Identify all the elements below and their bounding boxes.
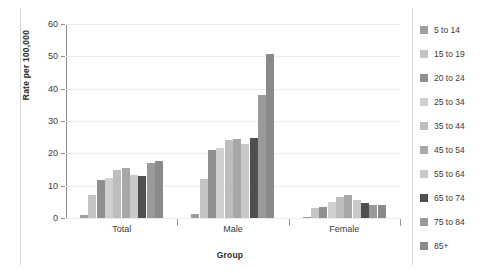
legend-swatch-icon	[420, 74, 428, 82]
bar	[155, 161, 163, 218]
gridline	[66, 218, 400, 219]
x-group-separator	[177, 219, 178, 226]
bar	[311, 208, 319, 218]
legend-swatch-icon	[420, 122, 428, 130]
legend: 5 to 1415 to 1920 to 2425 to 3435 to 444…	[420, 18, 495, 258]
x-group-separator	[400, 219, 401, 226]
bar	[353, 200, 361, 218]
gridline	[66, 89, 400, 90]
bar	[378, 205, 386, 218]
y-tick-mark	[61, 24, 65, 25]
bar	[258, 95, 266, 218]
y-tick-label: 50	[48, 51, 58, 61]
x-axis-label: Group	[60, 250, 400, 260]
bar	[233, 139, 241, 218]
legend-item[interactable]: 35 to 44	[420, 114, 495, 138]
plot-area: 0102030405060	[66, 24, 400, 218]
legend-item[interactable]: 75 to 84	[420, 210, 495, 234]
y-tick-mark	[61, 121, 65, 122]
legend-label: 25 to 34	[434, 97, 465, 107]
bar	[122, 168, 130, 218]
bar	[344, 195, 352, 218]
bar	[250, 138, 258, 218]
bar	[130, 175, 138, 218]
y-tick-mark	[61, 56, 65, 57]
bar	[113, 170, 121, 218]
bar	[225, 140, 233, 218]
gridline	[66, 24, 400, 25]
legend-swatch-icon	[420, 218, 428, 226]
y-tick-mark	[61, 218, 65, 219]
legend-item[interactable]: 15 to 19	[420, 42, 495, 66]
legend-swatch-icon	[420, 26, 428, 34]
legend-label: 5 to 14	[434, 25, 460, 35]
bar	[80, 215, 88, 218]
plot-region: Rate per 100,000 Group 0102030405060 Tot…	[0, 0, 412, 273]
bar	[369, 205, 377, 218]
legend-item[interactable]: 25 to 34	[420, 90, 495, 114]
x-group-separator	[289, 219, 290, 226]
legend-item[interactable]: 5 to 14	[420, 18, 495, 42]
bar-chart: Rate per 100,000 Group 0102030405060 Tot…	[0, 0, 495, 273]
bar	[328, 202, 336, 218]
bar	[200, 179, 208, 218]
bar	[88, 195, 96, 218]
y-axis-label: Rate per 100,000	[21, 0, 31, 135]
legend-swatch-icon	[420, 170, 428, 178]
legend-swatch-icon	[420, 242, 428, 250]
bar	[147, 163, 155, 218]
legend-item[interactable]: 65 to 74	[420, 186, 495, 210]
legend-divider-rule	[412, 8, 413, 265]
bar	[105, 178, 113, 218]
gridline	[66, 56, 400, 57]
y-tick-label: 30	[48, 116, 58, 126]
bar	[336, 197, 344, 218]
legend-item[interactable]: 20 to 24	[420, 66, 495, 90]
bar	[208, 150, 216, 218]
y-tick-label: 60	[48, 19, 58, 29]
legend-label: 75 to 84	[434, 217, 465, 227]
legend-item[interactable]: 55 to 64	[420, 162, 495, 186]
y-tick-label: 20	[48, 148, 58, 158]
y-tick-label: 40	[48, 84, 58, 94]
bar	[191, 214, 199, 218]
legend-swatch-icon	[420, 50, 428, 58]
legend-label: 45 to 54	[434, 145, 465, 155]
x-tick-label: Female	[329, 224, 359, 234]
bar	[216, 148, 224, 218]
legend-swatch-icon	[420, 146, 428, 154]
bar	[319, 207, 327, 218]
legend-item[interactable]: 45 to 54	[420, 138, 495, 162]
legend-swatch-icon	[420, 194, 428, 202]
legend-label: 20 to 24	[434, 73, 465, 83]
x-tick-label: Male	[223, 224, 243, 234]
y-tick-mark	[61, 153, 65, 154]
legend-swatch-icon	[420, 98, 428, 106]
legend-label: 35 to 44	[434, 121, 465, 131]
y-tick-mark	[61, 89, 65, 90]
legend-label: 55 to 64	[434, 169, 465, 179]
bar	[138, 176, 146, 218]
legend-label: 65 to 74	[434, 193, 465, 203]
bar	[97, 180, 105, 218]
gridline	[66, 121, 400, 122]
bar	[266, 54, 274, 218]
bar	[241, 144, 249, 218]
y-tick-mark	[61, 186, 65, 187]
y-tick-label: 10	[48, 181, 58, 191]
y-tick-label: 0	[53, 213, 58, 223]
legend-label: 15 to 19	[434, 49, 465, 59]
bar	[303, 217, 311, 218]
x-tick-label: Total	[112, 224, 131, 234]
legend-label: 85+	[434, 241, 448, 251]
legend-item[interactable]: 85+	[420, 234, 495, 258]
bar	[361, 203, 369, 218]
